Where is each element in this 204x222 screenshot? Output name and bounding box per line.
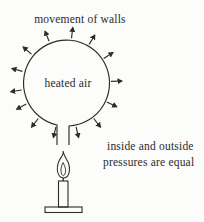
wall-arrow: [45, 31, 49, 41]
wall-arrow: [72, 27, 73, 38]
wall-arrow: [89, 35, 95, 44]
wall-arrow: [17, 104, 27, 109]
heated-air-label: heated air: [44, 77, 91, 89]
candle-body: [59, 181, 69, 207]
candle-base: [45, 207, 82, 213]
balloon-outline: [24, 40, 110, 145]
wall-arrow: [104, 53, 113, 59]
wall-arrow: [94, 119, 101, 128]
wall-arrow: [53, 127, 56, 138]
pressure-note-line2: pressures are equal: [103, 156, 194, 169]
pressure-note-line1: inside and outside: [107, 140, 194, 152]
wall-arrow: [23, 47, 31, 54]
flame-outer-icon: [57, 151, 69, 178]
wall-arrow: [11, 90, 22, 92]
pressure-diagram: movement of walls heated air inside and …: [0, 0, 204, 222]
wall-arrow: [32, 119, 39, 128]
textbook-figure: movement of walls heated air inside and …: [0, 0, 204, 222]
wall-arrow: [107, 102, 117, 107]
wall-arrow: [76, 127, 79, 138]
wall-arrow: [12, 69, 23, 72]
movement-of-walls-label: movement of walls: [34, 13, 126, 25]
